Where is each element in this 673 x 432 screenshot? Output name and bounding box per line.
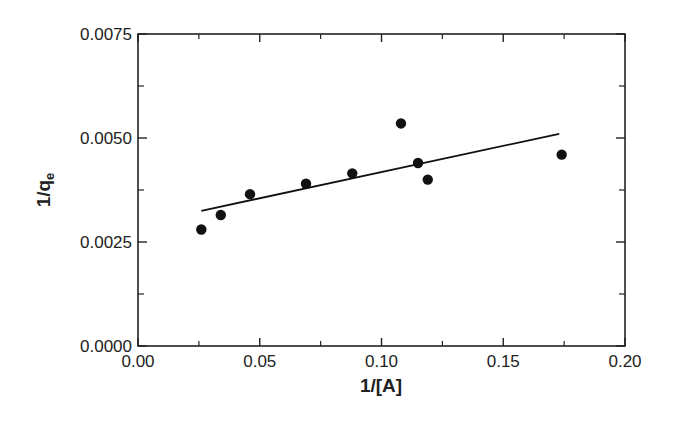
scatter-chart: 0.000.050.100.150.200.00000.00250.00500.… xyxy=(0,0,673,432)
x-tick-label: 0.20 xyxy=(608,352,641,371)
data-point xyxy=(245,189,255,199)
data-points xyxy=(196,118,567,234)
data-point xyxy=(556,149,566,159)
y-tick-label: 0.0050 xyxy=(80,129,132,148)
plot-axes xyxy=(138,34,625,346)
y-tick-label: 0.0075 xyxy=(80,25,132,44)
data-point xyxy=(423,174,433,184)
y-tick-label: 0.0025 xyxy=(80,233,132,252)
x-tick-label: 0.05 xyxy=(243,352,276,371)
data-point xyxy=(196,224,206,234)
data-point xyxy=(413,158,423,168)
x-axis-label: 1/[A] xyxy=(360,375,402,396)
data-point xyxy=(216,210,226,220)
plot-frame xyxy=(138,34,625,346)
axis-ticks: 0.000.050.100.150.200.00000.00250.00500.… xyxy=(80,25,642,371)
y-tick-label: 0.0000 xyxy=(80,337,132,356)
data-point xyxy=(396,118,406,128)
y-axis-label: 1/qe xyxy=(33,173,57,208)
data-point xyxy=(347,168,357,178)
linear-fit-line xyxy=(201,134,559,211)
fit-line xyxy=(201,134,559,211)
data-point xyxy=(301,179,311,189)
x-tick-label: 0.15 xyxy=(487,352,520,371)
x-tick-label: 0.10 xyxy=(365,352,398,371)
